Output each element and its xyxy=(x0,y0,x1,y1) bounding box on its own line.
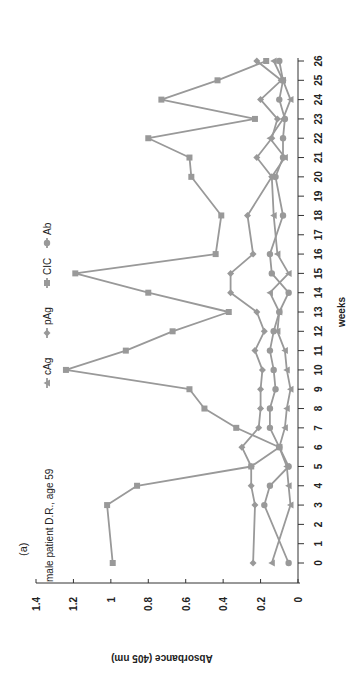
triangle-marker-icon xyxy=(266,289,273,296)
circle-marker-icon xyxy=(272,174,278,180)
x-tick-label: 23 xyxy=(313,113,324,125)
circle-marker-icon xyxy=(276,96,282,102)
square-marker-icon xyxy=(170,328,176,334)
x-tick-label: 15 xyxy=(313,267,324,279)
square-marker-icon xyxy=(218,212,224,218)
diamond-marker-icon xyxy=(259,366,266,373)
square-marker-icon xyxy=(215,77,221,83)
x-tick-label: 20 xyxy=(313,171,324,183)
x-tick-label: 7 xyxy=(313,425,324,431)
diamond-marker-icon xyxy=(251,347,258,354)
circle-marker-icon xyxy=(280,77,286,83)
line-chart: 00.20.40.60.811.21.401234567891011121314… xyxy=(0,0,353,676)
legend-item-cic: CIC xyxy=(42,258,53,288)
circle-marker-icon xyxy=(285,289,291,295)
square-marker-icon xyxy=(248,463,254,469)
circle-marker-icon xyxy=(276,58,282,64)
square-marker-icon xyxy=(63,367,69,373)
legend-item-pag: pAg xyxy=(42,307,53,338)
circle-marker-icon xyxy=(261,502,267,508)
y-tick-label: 1.4 xyxy=(31,597,42,611)
circle-marker-icon xyxy=(267,425,273,431)
legend-label: pAg xyxy=(42,307,53,325)
y-tick-label: 0 xyxy=(293,597,304,603)
circle-marker-icon xyxy=(285,560,291,566)
square-marker-icon xyxy=(226,309,232,315)
diamond-marker-icon xyxy=(248,482,255,489)
square-marker-icon xyxy=(252,116,258,122)
circle-marker-icon xyxy=(280,154,286,160)
square-marker-icon xyxy=(145,290,151,296)
circle-marker-icon xyxy=(276,309,282,315)
triangle-marker-icon xyxy=(268,560,275,567)
x-tick-label: 14 xyxy=(313,287,324,299)
square-marker-icon xyxy=(72,270,78,276)
patient-annotation: male patient D.R., age 59 xyxy=(44,468,55,582)
x-tick-label: 18 xyxy=(313,209,324,221)
circle-marker-icon xyxy=(270,367,276,373)
x-tick-label: 21 xyxy=(313,152,324,164)
x-tick-label: 8 xyxy=(313,405,324,411)
legend: cAgpAgCICAb xyxy=(42,222,53,388)
x-tick-label: 3 xyxy=(313,502,324,508)
diamond-marker-icon xyxy=(250,560,257,567)
x-tick-label: 0 xyxy=(313,560,324,566)
circle-marker-icon xyxy=(269,270,275,276)
circle-marker-icon xyxy=(44,240,50,246)
series-layer xyxy=(63,58,294,567)
legend-label: CIC xyxy=(42,258,53,275)
circle-marker-icon xyxy=(270,328,276,334)
diamond-marker-icon xyxy=(261,328,268,335)
square-marker-icon xyxy=(213,251,219,257)
diamond-marker-icon xyxy=(44,330,51,337)
square-marker-icon xyxy=(134,483,140,489)
x-tick-label: 24 xyxy=(313,94,324,106)
x-tick-label: 12 xyxy=(313,325,324,337)
square-marker-icon xyxy=(123,348,129,354)
circle-marker-icon xyxy=(280,135,286,141)
y-tick-label: 1 xyxy=(106,597,117,603)
circle-marker-icon xyxy=(267,405,273,411)
x-tick-label: 22 xyxy=(313,132,324,144)
series-cic xyxy=(63,58,282,566)
legend-item-ab: Ab xyxy=(42,222,53,248)
circle-marker-icon xyxy=(285,463,291,469)
y-tick-label: 0.4 xyxy=(218,597,229,611)
circle-marker-icon xyxy=(267,347,273,353)
square-marker-icon xyxy=(188,174,194,180)
x-tick-label: 26 xyxy=(313,55,324,67)
diamond-marker-icon xyxy=(257,386,264,393)
square-marker-icon xyxy=(158,97,164,103)
x-tick-label: 2 xyxy=(313,521,324,527)
x-tick-label: 9 xyxy=(313,386,324,392)
circle-marker-icon xyxy=(282,116,288,122)
x-tick-label: 5 xyxy=(313,463,324,469)
chart-figure: 00.20.40.60.811.21.401234567891011121314… xyxy=(0,0,353,676)
square-marker-icon xyxy=(145,135,151,141)
circle-marker-icon xyxy=(267,251,273,257)
series-line xyxy=(66,61,279,563)
circle-marker-icon xyxy=(267,483,273,489)
y-tick-label: 0.2 xyxy=(256,597,267,611)
circle-marker-icon xyxy=(280,212,286,218)
series-ab xyxy=(261,58,292,566)
square-marker-icon xyxy=(186,386,192,392)
square-marker-icon xyxy=(104,502,110,508)
square-marker-icon xyxy=(201,406,207,412)
legend-label: Ab xyxy=(42,222,53,235)
square-marker-icon xyxy=(110,560,116,566)
y-tick-label: 0.8 xyxy=(143,597,154,611)
x-tick-label: 17 xyxy=(313,229,324,241)
x-tick-label: 19 xyxy=(313,190,324,202)
x-tick-label: 10 xyxy=(313,364,324,376)
circle-marker-icon xyxy=(272,386,278,392)
x-tick-label: 16 xyxy=(313,248,324,260)
y-tick-label: 1.2 xyxy=(68,597,79,611)
diamond-marker-icon xyxy=(251,502,258,509)
diamond-marker-icon xyxy=(257,405,264,412)
legend-label: cAg xyxy=(42,358,53,375)
legend-item-cag: cAg xyxy=(42,358,53,388)
square-marker-icon xyxy=(44,280,50,286)
x-tick-label: 1 xyxy=(313,540,324,546)
y-tick-label: 0.6 xyxy=(181,597,192,611)
